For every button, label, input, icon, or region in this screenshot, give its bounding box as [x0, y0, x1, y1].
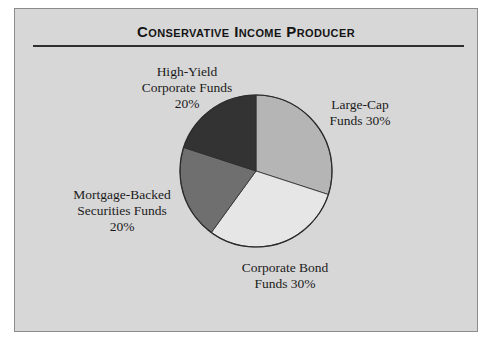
- slice-label-line: Large-Cap: [329, 97, 390, 113]
- slice-label-line: High-Yield: [142, 64, 232, 80]
- slice-label-line: Mortgage-Backed: [73, 187, 170, 203]
- slice-label-line: Funds 30%: [329, 113, 390, 129]
- slice-label-large-cap: Large-Cap Funds 30%: [329, 97, 390, 129]
- slice-label-line: Securities Funds: [73, 203, 170, 219]
- pie-chart: [177, 92, 335, 250]
- figure: Conservative Income Producer High-Yield …: [0, 0, 489, 347]
- slice-label-line: Corporate Funds: [142, 80, 232, 96]
- chart-card: Conservative Income Producer High-Yield …: [14, 8, 478, 332]
- title-divider: [33, 45, 464, 47]
- slice-label-corporate-bond: Corporate Bond Funds 30%: [242, 260, 329, 292]
- slice-label-line: 20%: [142, 96, 232, 112]
- slice-label-line: 20%: [73, 219, 170, 235]
- chart-title: Conservative Income Producer: [15, 23, 477, 40]
- slice-label-mortgage-backed: Mortgage-Backed Securities Funds 20%: [73, 187, 170, 235]
- slice-label-line: Funds 30%: [242, 276, 329, 292]
- slice-label-high-yield: High-Yield Corporate Funds 20%: [142, 64, 232, 112]
- slice-label-line: Corporate Bond: [242, 260, 329, 276]
